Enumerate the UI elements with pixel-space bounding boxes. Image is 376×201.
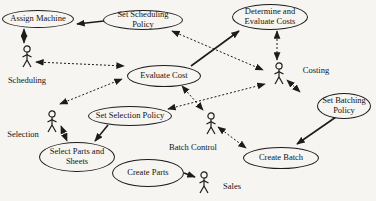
actor-sales	[198, 171, 210, 195]
actor-sales-label: Sales	[218, 182, 246, 191]
actor-scheduling-label: Scheduling	[3, 76, 51, 85]
actor-selection-label: Selection	[2, 130, 44, 139]
usecase-evaluate-cost: Evaluate Cost	[127, 65, 201, 87]
person-icon	[21, 45, 33, 69]
usecase-set-scheduling-policy: Set Scheduling Policy	[103, 10, 183, 30]
usecase-select-parts-sheets-label: Select Parts and Sheets	[40, 147, 114, 166]
person-icon	[273, 62, 285, 86]
usecase-assign-machine-label: Assign Machine	[7, 14, 68, 24]
usecase-evaluate-cost-label: Evaluate Cost	[137, 71, 190, 81]
actor-batch-control-label: Batch Control	[166, 143, 220, 152]
usecase-set-batching-policy: Set Batching Policy	[317, 93, 371, 119]
person-icon	[46, 110, 58, 134]
usecase-set-selection-policy: Set Selection Policy	[88, 106, 172, 126]
usecase-create-parts: Create Parts	[112, 159, 184, 187]
usecase-create-parts-label: Create Parts	[124, 168, 171, 178]
usecase-set-selection-policy-label: Set Selection Policy	[93, 111, 167, 121]
actor-costing-label: Costing	[298, 66, 334, 75]
usecase-create-batch: Create Batch	[243, 147, 319, 169]
usecase-set-batching-policy-label: Set Batching Policy	[318, 96, 370, 115]
actor-scheduling	[21, 45, 33, 69]
usecase-assign-machine: Assign Machine	[2, 10, 74, 28]
person-icon	[205, 112, 217, 136]
usecase-determine-evaluate-costs: Determine and Evaluate Costs	[232, 4, 308, 30]
usecase-create-batch-label: Create Batch	[256, 153, 306, 163]
usecase-set-scheduling-policy-label: Set Scheduling Policy	[104, 10, 182, 29]
use-case-diagram: Assign Machine Set Scheduling Policy Det…	[0, 0, 376, 201]
usecase-determine-evaluate-costs-label: Determine and Evaluate Costs	[233, 7, 307, 26]
person-icon	[198, 171, 210, 195]
actor-selection	[46, 110, 58, 134]
actor-costing	[273, 62, 285, 86]
usecase-select-parts-sheets: Select Parts and Sheets	[39, 142, 115, 172]
actor-batch-control	[205, 112, 217, 136]
